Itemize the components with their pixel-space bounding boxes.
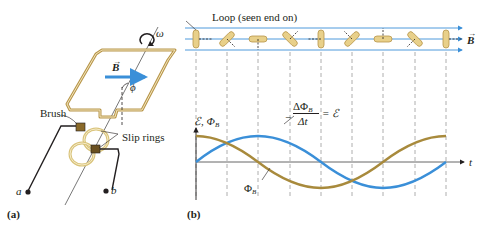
panel-b-graph	[196, 116, 464, 200]
formula-minus: −	[285, 112, 291, 123]
terminal-a	[25, 189, 30, 194]
vector-arrow-icon: →	[113, 58, 121, 66]
figure-canvas	[0, 0, 486, 229]
formula-rhs: = ℰ	[322, 108, 339, 119]
formula-denominator: Δt	[298, 116, 308, 127]
slip-rings-label: Slip rings	[122, 132, 164, 143]
fraction-bar	[293, 113, 319, 114]
panel-b-label: (b)	[187, 209, 200, 220]
terminal-b-label: b	[111, 185, 117, 196]
omega-label: ω	[156, 28, 164, 39]
brush-lower	[91, 145, 100, 153]
terminal-a-label: a	[16, 186, 22, 197]
phi-angle-label: ϕ	[130, 82, 136, 93]
brush-label: Brush	[40, 108, 66, 119]
vertical-grid-lines	[196, 52, 446, 196]
panel-a-label: (a)	[7, 209, 20, 220]
wire-loop	[67, 50, 175, 117]
loop-caption: Loop (seen end on)	[212, 12, 297, 23]
vector-arrow-icon-b: →	[468, 30, 476, 38]
terminal-b	[103, 188, 108, 193]
y-axis-label: ℰ, ΦB	[194, 116, 219, 129]
brush-upper	[76, 123, 85, 131]
x-axis-label: t	[469, 157, 472, 168]
flux-label: ΦB	[244, 183, 256, 196]
wire-a	[28, 126, 76, 191]
